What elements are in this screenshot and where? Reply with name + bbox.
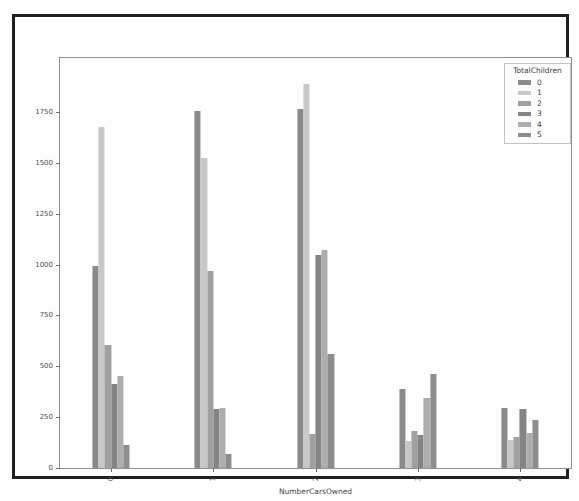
y-tick-mark bbox=[56, 112, 60, 113]
legend-swatch-icon bbox=[518, 133, 531, 138]
legend-item-4: 4 bbox=[508, 119, 567, 130]
x-tick-mark bbox=[418, 468, 419, 472]
plot-area: 0250500750100012501500175001234 bbox=[59, 57, 572, 469]
y-tick-label: 1000 bbox=[35, 261, 53, 269]
legend-item-0: 0 bbox=[508, 77, 567, 88]
legend-label: 2 bbox=[537, 99, 542, 108]
legend-item-2: 2 bbox=[508, 98, 567, 109]
legend-label: 1 bbox=[537, 88, 542, 97]
legend-title: TotalChildren bbox=[508, 66, 567, 75]
x-tick-mark bbox=[520, 468, 521, 472]
x-tick-label: 3 bbox=[414, 477, 422, 481]
y-tick-label: 250 bbox=[40, 413, 53, 421]
x-tick-mark bbox=[111, 468, 112, 472]
bar-cars-4-children-5 bbox=[532, 420, 538, 468]
legend-swatch-icon bbox=[518, 122, 531, 127]
legend-item-1: 1 bbox=[508, 88, 567, 99]
x-tick-label: 2 bbox=[312, 477, 320, 481]
legend-label: 3 bbox=[537, 109, 542, 118]
x-tick-mark bbox=[316, 468, 317, 472]
legend-item-5: 5 bbox=[508, 130, 567, 141]
legend-swatch-icon bbox=[518, 101, 531, 106]
x-tick-mark bbox=[213, 468, 214, 472]
legend-swatch-icon bbox=[518, 80, 531, 85]
bar-cars-2-children-5 bbox=[328, 354, 334, 468]
y-tick-label: 0 bbox=[49, 464, 53, 472]
x-tick-label: 0 bbox=[107, 477, 115, 481]
legend-swatch-icon bbox=[518, 91, 531, 96]
legend-item-3: 3 bbox=[508, 109, 567, 120]
legend: TotalChildren 012345 bbox=[504, 63, 571, 144]
x-axis-title: NumberCarsOwned bbox=[59, 487, 572, 496]
y-tick-label: 1500 bbox=[35, 159, 53, 167]
bar-group-cars-1 bbox=[195, 58, 232, 468]
y-tick-mark bbox=[56, 265, 60, 266]
bar-group-cars-3 bbox=[399, 58, 436, 468]
bar-cars-1-children-5 bbox=[226, 454, 232, 468]
y-tick-mark bbox=[56, 214, 60, 215]
bar-cars-0-children-5 bbox=[123, 445, 129, 468]
y-tick-mark bbox=[56, 163, 60, 164]
y-tick-label: 500 bbox=[40, 362, 53, 370]
bar-group-cars-0 bbox=[93, 58, 130, 468]
x-tick-label: 1 bbox=[209, 477, 217, 481]
legend-label: 0 bbox=[537, 78, 542, 87]
legend-label: 5 bbox=[537, 130, 542, 139]
bar-group-cars-2 bbox=[297, 58, 334, 468]
y-tick-label: 1750 bbox=[35, 108, 53, 116]
legend-swatch-icon bbox=[518, 112, 531, 117]
y-tick-mark bbox=[56, 366, 60, 367]
bar-cars-2-children-1 bbox=[303, 84, 309, 468]
y-tick-mark bbox=[56, 417, 60, 418]
figure-frame: 0250500750100012501500175001234 NumberCa… bbox=[12, 14, 569, 479]
y-tick-mark bbox=[56, 315, 60, 316]
bar-cars-3-children-5 bbox=[430, 374, 436, 468]
x-tick-label: 4 bbox=[516, 477, 524, 481]
y-tick-mark bbox=[56, 468, 60, 469]
y-tick-label: 1250 bbox=[35, 210, 53, 218]
y-tick-label: 750 bbox=[40, 311, 53, 319]
figure-canvas: 0250500750100012501500175001234 NumberCa… bbox=[0, 0, 579, 501]
legend-label: 4 bbox=[537, 120, 542, 129]
